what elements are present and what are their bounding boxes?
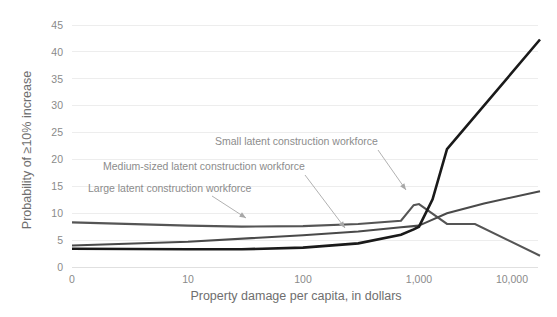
x-tick-label: 10,000: [496, 273, 528, 285]
y-tick-label: 5: [57, 234, 63, 246]
large-latent-annotation: Large latent construction workforce: [88, 182, 252, 194]
y-tick-label: 35: [51, 73, 63, 85]
x-axis-title: Property damage per capita, in dollars: [190, 289, 401, 303]
y-tick-label: 30: [51, 99, 63, 111]
chart-container: 051015202530354045 0101001,00010,000 Sma…: [0, 0, 557, 317]
y-axis-title: Probability of ≥10% increase: [20, 71, 34, 229]
y-tick-label: 10: [51, 207, 63, 219]
y-tick-label: 20: [51, 153, 63, 165]
y-tick-label: 40: [51, 46, 63, 58]
medium-latent-annotation: Medium-sized latent construction workfor…: [103, 160, 305, 172]
small-latent-annotation: Small latent construction workforce: [215, 135, 378, 147]
x-tick-label: 0: [69, 273, 75, 285]
y-tick-label: 15: [51, 180, 63, 192]
x-tick-label: 1,000: [406, 273, 432, 285]
line-chart: 051015202530354045 0101001,00010,000 Sma…: [0, 0, 557, 317]
x-tick-label: 10: [182, 273, 194, 285]
chart-background: [0, 0, 557, 317]
y-tick-label: 25: [51, 126, 63, 138]
y-tick-label: 45: [51, 19, 63, 31]
x-tick-label: 100: [294, 273, 312, 285]
y-tick-label: 0: [57, 261, 63, 273]
